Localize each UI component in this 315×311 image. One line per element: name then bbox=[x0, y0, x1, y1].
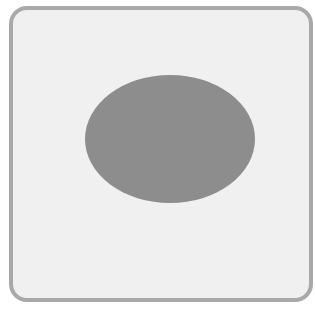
canvas bbox=[0, 0, 315, 311]
gray-ellipse bbox=[85, 75, 255, 203]
